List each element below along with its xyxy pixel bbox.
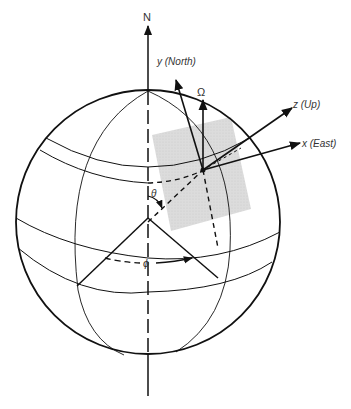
point-p xyxy=(201,168,206,173)
tangent-plane xyxy=(152,117,251,231)
colatitude-label: θ xyxy=(151,188,157,199)
longitude-arc-left xyxy=(105,258,140,263)
earth-frame-diagram: N y (North) Ω z (Up) x (East) θ ϕ xyxy=(0,0,351,409)
earth-rate-label: Ω xyxy=(197,86,205,98)
meridian-left xyxy=(75,91,148,355)
x-axis-label: x (East) xyxy=(301,138,336,149)
z-axis-label: z (Up) xyxy=(292,99,320,110)
north-label: N xyxy=(143,11,151,23)
y-axis-label: y (North) xyxy=(156,56,196,67)
lower-latitude-circle xyxy=(18,248,272,293)
longitude-label: ϕ xyxy=(143,257,149,269)
longitude-radius-left xyxy=(77,218,148,286)
